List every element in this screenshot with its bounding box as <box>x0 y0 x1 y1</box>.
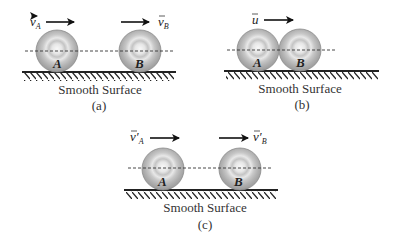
velocity-vector-va: vA <box>30 14 74 31</box>
ground-b <box>224 71 379 80</box>
velocity-vector-vb: vB <box>121 14 169 31</box>
panel-c: A B v′A v′B Smooth Surface (c) <box>124 129 278 232</box>
ball-a: A <box>142 148 184 190</box>
collision-diagram: A B vA vB Smooth Surface (a) <box>0 0 396 243</box>
panel-b: A B u Smooth Surface (b) <box>224 12 379 112</box>
ball-a-label: A <box>52 56 62 71</box>
surface-label-b: Smooth Surface <box>258 81 342 96</box>
ball-b-label: B <box>134 56 144 71</box>
caption-a: (a) <box>92 98 106 113</box>
panel-a: A B vA vB Smooth Surface (a) <box>22 14 176 113</box>
ball-b-label: B <box>233 174 243 189</box>
svg-text:vA: vA <box>30 14 41 31</box>
caption-c: (c) <box>198 217 212 232</box>
surface-label-c: Smooth Surface <box>163 200 247 215</box>
ground-c <box>124 190 278 199</box>
velocity-vector-u: u <box>252 12 293 27</box>
svg-text:v′A: v′A <box>130 129 144 146</box>
svg-text:v′B: v′B <box>253 129 267 146</box>
surface-label-a: Smooth Surface <box>58 82 142 97</box>
ball-b: B <box>219 148 261 190</box>
caption-b: (b) <box>294 97 309 112</box>
ball-a-label: A <box>252 55 262 70</box>
svg-text:vB: vB <box>158 14 169 31</box>
velocity-vector-va-prime: v′A <box>130 129 179 146</box>
ball-b-label: B <box>295 55 305 70</box>
ball-a-label: A <box>157 174 167 189</box>
ground-a <box>22 72 176 81</box>
velocity-vector-vb-prime: v′B <box>219 129 267 146</box>
